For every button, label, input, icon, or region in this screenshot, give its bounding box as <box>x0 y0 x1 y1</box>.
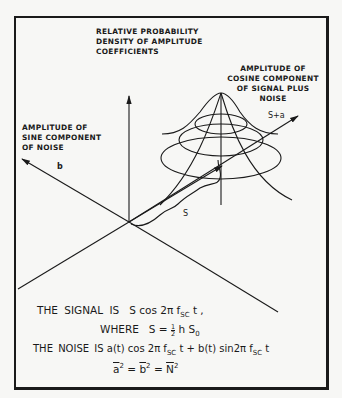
cosine-axis-symbol: S+a <box>268 111 285 120</box>
noise-equation: THE NOISE IS a(t) cos 2π fSC t + b(t) si… <box>33 343 269 357</box>
sine-axis-label: AMPLITUDE OF SINE COMPONENT OF NOISE <box>22 123 101 153</box>
signal-equation: THE SIGNAL IS S cos 2π fSC t , <box>37 304 204 319</box>
where-equation: WHERE S = 1 2 h S0 <box>100 323 200 338</box>
diagram-drawing <box>0 0 342 398</box>
signal-vector-symbol: S <box>183 209 188 218</box>
signal-vector <box>129 166 222 222</box>
vertical-axis-label: RELATIVE PROBABILITY DENSITY OF AMPLITUD… <box>96 27 203 57</box>
sine-axis <box>22 159 129 222</box>
variance-equation: a2 = b2 = N2 <box>113 362 178 375</box>
sine-axis-symbol: b <box>57 162 63 171</box>
cosine-axis-label: AMPLITUDE OF COSINE COMPONENT OF SIGNAL … <box>218 64 328 104</box>
